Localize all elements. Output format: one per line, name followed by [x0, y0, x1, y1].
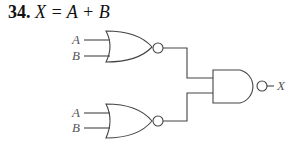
wire-bottom-to-nand — [163, 93, 213, 121]
inversion-bubble-top — [153, 43, 163, 53]
nand-gate — [213, 70, 274, 103]
inversion-bubble-nand — [257, 81, 267, 91]
inversion-bubble-bottom — [153, 116, 163, 126]
nor-body-top — [106, 31, 152, 62]
label-bottom-b: B — [72, 120, 80, 135]
nor-gate-top — [84, 31, 163, 62]
nor-gate-bottom — [84, 104, 163, 138]
logic-diagram: A B A B X — [0, 0, 296, 148]
label-bottom-a: A — [71, 105, 80, 120]
label-top-b: B — [72, 48, 80, 63]
label-output-x: X — [276, 78, 286, 93]
wire-top-to-nand — [163, 48, 213, 78]
nand-body — [213, 70, 253, 103]
label-top-a: A — [71, 32, 80, 47]
nor-body-bottom — [106, 104, 152, 138]
